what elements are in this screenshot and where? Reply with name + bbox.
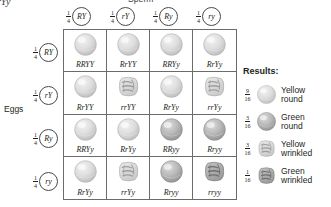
results-panel: Results: 916Yellowround316Greenround316Y… — [243, 66, 331, 189]
legend-row: 316Greenround — [243, 108, 331, 135]
legend-row: 916Yellowround — [243, 81, 331, 108]
pea-icon — [73, 159, 98, 184]
pea-icon — [116, 74, 141, 99]
punnett-cell: rrYy — [193, 72, 236, 114]
punnett-cell: RrYy — [150, 72, 193, 114]
genotype-label: RrYY — [64, 103, 106, 112]
legend-fraction: 116 — [243, 169, 252, 183]
legend-text: Greenwrinkled — [281, 167, 312, 185]
pea-icon — [116, 159, 141, 184]
legend-text: Yellowround — [281, 86, 305, 104]
pea-icon — [73, 32, 98, 57]
sperm-gamete-1: 1 4 rY — [110, 7, 135, 26]
egg-gamete-0: 1 4 RY — [33, 43, 58, 62]
allele-circle: Ry — [39, 129, 58, 148]
eggs-label: Eggs — [4, 104, 23, 114]
legend-fraction: 316 — [243, 115, 252, 129]
pea-icon — [159, 32, 184, 57]
parent-genotype-label: rYy — [0, 0, 10, 7]
pea-icon — [159, 117, 184, 142]
punnett-cell: Rryy — [150, 157, 193, 199]
genotype-label: Rryy — [193, 145, 236, 154]
sperm-gamete-0: 1 4 RY — [66, 7, 91, 26]
fraction: 1 4 — [33, 89, 38, 103]
pea-icon — [73, 74, 98, 99]
fraction: 1 4 — [66, 10, 71, 24]
allele-circle: RY — [39, 43, 58, 62]
genotype-label: RrYY — [107, 60, 149, 69]
genotype-label: rrYy — [193, 103, 236, 112]
legend-pea-icon — [255, 83, 278, 106]
legend-text: Greenround — [281, 113, 305, 131]
punnett-square-grid: RRYYRrYYRRYyRrYyRrYYrrYYRrYyrrYyRRYyRrYy… — [63, 29, 237, 200]
pea-icon — [202, 159, 227, 184]
legend-pea-icon — [255, 110, 278, 133]
fraction: 1 4 — [196, 10, 201, 24]
pea-icon — [202, 74, 227, 99]
punnett-cell: rrYY — [107, 72, 150, 114]
punnett-cell: RRYY — [64, 30, 107, 72]
punnett-cell: rrYy — [107, 157, 150, 199]
fraction: 1 4 — [33, 46, 38, 60]
allele-circle: RY — [72, 7, 91, 26]
genotype-label: rryy — [193, 188, 236, 197]
pea-icon — [116, 117, 141, 142]
pea-icon — [202, 32, 227, 57]
punnett-cell: RrYy — [107, 115, 150, 157]
pea-icon — [202, 117, 227, 142]
pea-icon — [116, 32, 141, 57]
allele-circle: ry — [39, 172, 58, 191]
genotype-label: RRYy — [150, 60, 192, 69]
egg-gamete-3: 1 4 ry — [33, 172, 58, 191]
pea-icon — [73, 117, 98, 142]
egg-gamete-1: 1 4 rY — [33, 86, 58, 105]
genotype-label: Rryy — [150, 188, 192, 197]
genotype-label: rrYY — [107, 103, 149, 112]
punnett-cell: RRYy — [64, 115, 107, 157]
legend-pea-icon — [255, 137, 278, 160]
allele-circle: rY — [116, 7, 135, 26]
pea-icon — [159, 74, 184, 99]
genotype-label: RRYY — [64, 60, 106, 69]
genotype-label: RRyy — [150, 145, 192, 154]
allele-circle: ry — [202, 7, 221, 26]
legend-row: 116Greenwrinkled — [243, 162, 331, 189]
sperm-label: Sperm — [128, 0, 154, 4]
genotype-label: RrYy — [64, 188, 106, 197]
legend-text: Yellowwrinkled — [281, 140, 312, 158]
sperm-gamete-3: 1 4 ry — [196, 7, 221, 26]
punnett-cell: RrYY — [107, 30, 150, 72]
punnett-cell: RRyy — [150, 115, 193, 157]
legend-fraction: 316 — [243, 142, 252, 156]
punnett-cell: RrYY — [64, 72, 107, 114]
genotype-label: RrYy — [107, 145, 149, 154]
fraction: 1 4 — [110, 10, 115, 24]
punnett-cell: rryy — [193, 157, 236, 199]
pea-icon — [159, 159, 184, 184]
genotype-label: RrYy — [150, 103, 192, 112]
legend-fraction: 916 — [243, 88, 252, 102]
fraction: 1 4 — [153, 10, 158, 24]
fraction: 1 4 — [33, 132, 38, 146]
egg-gamete-2: 1 4 Ry — [33, 129, 58, 148]
punnett-cell: Rryy — [193, 115, 236, 157]
legend-row: 316Yellowwrinkled — [243, 135, 331, 162]
punnett-cell: RrYy — [64, 157, 107, 199]
results-title: Results: — [243, 66, 331, 76]
fraction: 1 4 — [33, 175, 38, 189]
legend-pea-icon — [255, 164, 278, 187]
genotype-label: RrYy — [193, 60, 236, 69]
punnett-cell: RrYy — [193, 30, 236, 72]
results-list: 916Yellowround316Greenround316Yellowwrin… — [243, 81, 331, 189]
allele-circle: rY — [39, 86, 58, 105]
allele-circle: Ry — [159, 7, 178, 26]
genotype-label: RRYy — [64, 145, 106, 154]
punnett-cell: RRYy — [150, 30, 193, 72]
sperm-gamete-2: 1 4 Ry — [153, 7, 178, 26]
genotype-label: rrYy — [107, 188, 149, 197]
